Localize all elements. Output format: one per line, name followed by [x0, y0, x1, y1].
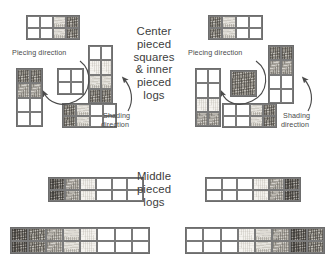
quilt-block-left-panel-center-square — [57, 68, 84, 95]
quilt-block-right-panel-right-vertical — [268, 45, 294, 104]
shading-direction-label-right-line2: direction — [281, 121, 309, 129]
quilt-cell — [272, 241, 289, 254]
quilt-cell — [263, 104, 276, 116]
quilt-block-right-panel-center-square — [230, 70, 257, 97]
quilt-cell — [11, 241, 28, 254]
quilt-cell — [269, 190, 285, 202]
quilt-cell — [208, 98, 220, 112]
quilt-cell — [250, 104, 263, 116]
quilt-cell — [30, 83, 43, 97]
quilt-block-left-panel-top-strip — [26, 15, 80, 40]
quilt-cell — [249, 28, 262, 40]
quilt-cell — [281, 46, 293, 60]
quilt-cell — [89, 75, 101, 89]
quilt-cell — [76, 104, 89, 116]
shading-arrow-right — [304, 79, 311, 111]
quilt-cell — [101, 60, 113, 74]
quilt-cell — [63, 104, 76, 116]
shading-direction-label-right-line1: Shading — [283, 112, 310, 120]
quilt-cell — [11, 228, 28, 241]
quilt-cell — [307, 241, 324, 254]
quilt-cell — [186, 228, 203, 241]
quilt-cell — [222, 178, 238, 190]
quilt-cell — [17, 112, 30, 126]
quilt-cell — [80, 228, 97, 241]
quilt-cell — [238, 228, 255, 241]
quilt-cell — [89, 60, 101, 74]
quilt-cell — [115, 241, 132, 254]
quilt-cell — [236, 104, 249, 116]
quilt-cell — [89, 89, 101, 103]
quilt-cell — [71, 82, 84, 95]
quilt-cell — [53, 28, 66, 40]
quilt-cell — [208, 83, 220, 97]
quilt-cell — [209, 16, 222, 28]
quilt-cell — [80, 241, 97, 254]
quilt-block-bottom-row-bottom-right-strip — [185, 227, 325, 254]
quilt-cell — [101, 89, 113, 103]
quilt-cell — [97, 241, 114, 254]
quilt-cell — [237, 190, 253, 202]
quilt-cell — [115, 228, 132, 241]
quilt-cell — [97, 228, 114, 241]
quilt-cell — [281, 75, 293, 89]
quilt-cell — [290, 228, 307, 241]
quilt-cell — [40, 28, 53, 40]
quilt-cell — [203, 241, 220, 254]
quilt-cell — [253, 190, 269, 202]
quilt-cell — [63, 241, 80, 254]
quilt-cell — [66, 16, 79, 28]
quilt-cell — [236, 16, 249, 28]
quilt-cell — [196, 98, 208, 112]
quilt-cell — [186, 241, 203, 254]
quilt-cell — [196, 112, 208, 126]
figure-canvas: Piecing direction Shading direction Piec… — [0, 0, 328, 273]
quilt-cell — [65, 190, 81, 202]
quilt-cell — [269, 75, 281, 89]
quilt-block-left-panel-right-vertical — [88, 45, 113, 104]
quilt-block-middle-row-middle-right-strip — [205, 177, 301, 202]
quilt-cell — [221, 241, 238, 254]
quilt-cell — [236, 28, 249, 40]
quilt-cell — [96, 190, 112, 202]
quilt-cell — [238, 241, 255, 254]
quilt-block-right-panel-top-strip — [208, 15, 263, 40]
quilt-cell — [222, 28, 235, 40]
quilt-cell — [49, 178, 65, 190]
quilt-cell — [89, 46, 101, 60]
shading-direction-label-left-line2: direction — [101, 121, 129, 129]
quilt-cell — [307, 228, 324, 241]
quilt-cell — [196, 83, 208, 97]
quilt-cell — [80, 178, 96, 190]
quilt-cell — [40, 16, 53, 28]
quilt-cell — [269, 60, 281, 74]
quilt-cell — [281, 60, 293, 74]
quilt-cell — [17, 98, 30, 112]
quilt-cell — [46, 241, 63, 254]
quilt-cell — [209, 28, 222, 40]
quilt-cell — [269, 178, 285, 190]
quilt-cell — [269, 46, 281, 60]
quilt-cell — [223, 104, 236, 116]
quilt-cell — [222, 16, 235, 28]
quilt-block-right-panel-left-vertical — [195, 68, 221, 127]
quilt-block-bottom-row-bottom-left-strip — [10, 227, 150, 254]
quilt-cell — [28, 241, 45, 254]
quilt-cell — [30, 69, 43, 83]
quilt-cell — [236, 116, 249, 128]
quilt-block-left-panel-left-vertical — [16, 68, 43, 127]
piecing-direction-label-right: Piecing direction — [188, 49, 242, 57]
quilt-cell — [101, 46, 113, 60]
quilt-cell — [237, 178, 253, 190]
quilt-cell — [96, 178, 112, 190]
quilt-cell — [58, 82, 71, 95]
shading-direction-label-left-line1: Shading — [103, 112, 130, 120]
quilt-cell — [58, 69, 71, 82]
quilt-cell — [30, 112, 43, 126]
quilt-cell — [231, 71, 256, 96]
quilt-cell — [208, 112, 220, 126]
quilt-cell — [27, 16, 40, 28]
center-pieced-caption: Center pieced squares & inner pieced log… — [125, 25, 183, 102]
quilt-cell — [28, 228, 45, 241]
quilt-cell — [49, 190, 65, 202]
